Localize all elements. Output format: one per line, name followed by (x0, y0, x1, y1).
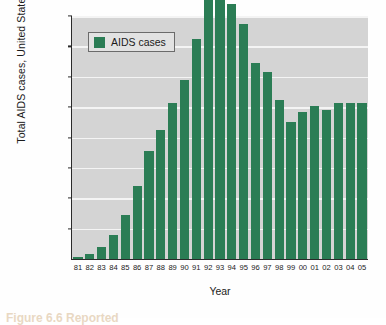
bar (322, 110, 331, 259)
bar (192, 39, 201, 259)
y-tick-mark (68, 198, 72, 199)
x-tick-label: 92 (204, 263, 212, 272)
bar (286, 122, 295, 259)
bar-series-aids-cases (72, 16, 368, 259)
bar (168, 103, 177, 259)
legend-label: AIDS cases (111, 36, 166, 48)
x-tick-label: 88 (157, 263, 165, 272)
bar (346, 103, 355, 259)
bar (204, 0, 213, 259)
bar (298, 112, 307, 259)
x-tick-label: 86 (133, 263, 141, 272)
bar (251, 63, 260, 259)
bar (73, 257, 82, 259)
x-tick-label: 83 (97, 263, 105, 272)
x-tick-label: 05 (358, 263, 366, 272)
y-tick-mark (68, 137, 72, 138)
bar (85, 254, 94, 259)
x-tick-label: 89 (168, 263, 176, 272)
bar (133, 186, 142, 259)
bar (109, 235, 118, 259)
x-tick-label: 87 (145, 263, 153, 272)
bar (227, 4, 236, 259)
y-tick-mark (68, 15, 72, 16)
bar (263, 72, 272, 259)
y-tick-mark (68, 167, 72, 168)
bar (156, 130, 165, 259)
x-tick-label: 93 (216, 263, 224, 272)
x-tick-label: 04 (346, 263, 354, 272)
bar (275, 100, 284, 259)
bar (310, 106, 319, 259)
bar (121, 215, 130, 259)
x-tick-label: 02 (322, 263, 330, 272)
bar (357, 103, 366, 259)
x-tick-label: 94 (228, 263, 236, 272)
x-tick-label: 96 (251, 263, 259, 272)
x-tick-label: 00 (299, 263, 307, 272)
x-tick-label: 95 (239, 263, 247, 272)
x-tick-label: 90 (180, 263, 188, 272)
bar (334, 103, 343, 259)
x-tick-label: 84 (109, 263, 117, 272)
x-tick-label: 03 (334, 263, 342, 272)
x-tick-label: 98 (275, 263, 283, 272)
x-tick-label: 99 (287, 263, 295, 272)
legend-swatch-icon (94, 37, 105, 48)
bar (144, 151, 153, 259)
x-tick-label: 81 (74, 263, 82, 272)
x-tick-label: 97 (263, 263, 271, 272)
y-tick-mark (68, 107, 72, 108)
x-tick-label: 82 (86, 263, 94, 272)
y-tick-mark (68, 76, 72, 77)
plot-area: AIDS cases (72, 16, 368, 259)
bar (97, 247, 106, 259)
y-tick-mark (68, 46, 72, 47)
bar (239, 24, 248, 259)
x-tick-label: 01 (310, 263, 318, 272)
bar (180, 80, 189, 259)
x-axis-line (71, 259, 368, 260)
legend: AIDS cases (88, 32, 175, 52)
x-tick-label: 91 (192, 263, 200, 272)
figure-caption: Figure 6.6 Reported (6, 311, 119, 325)
y-tick-mark (68, 228, 72, 229)
x-axis-title: Year (72, 285, 368, 297)
x-tick-label: 85 (121, 263, 129, 272)
y-axis-title: Total AIDS cases, United States (15, 0, 27, 173)
bar (215, 0, 224, 259)
